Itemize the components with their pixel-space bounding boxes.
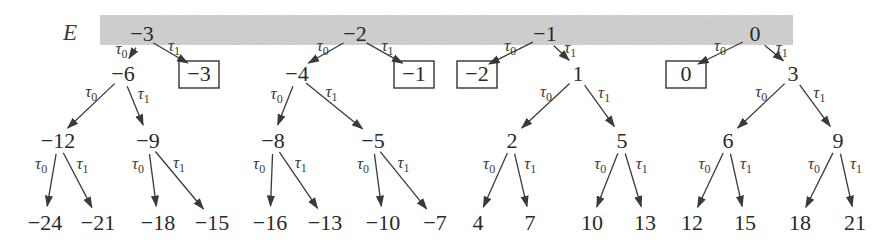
tau0-label: τ0 [808, 154, 820, 176]
boxed-node: 0 [666, 61, 706, 88]
nodes: −3−2−10−6−3−4−1−2103−12−9−8−52569−24−21−… [28, 21, 866, 235]
leaf-node: 7 [525, 210, 536, 235]
tau1-label: τ1 [77, 154, 89, 176]
root-node: −1 [533, 21, 556, 46]
node-value: 15 [734, 210, 756, 235]
tau1-label: τ1 [813, 83, 825, 105]
node-value: −1 [533, 21, 556, 46]
tree-node: −4 [285, 61, 308, 86]
tau1-label: τ1 [295, 153, 307, 175]
leaf-node: 4 [473, 210, 484, 235]
tree-node: −9 [136, 128, 159, 153]
root-node: 0 [750, 21, 761, 46]
node-value: 12 [681, 210, 703, 235]
node-value: 1 [573, 61, 584, 86]
tau0-label: τ0 [357, 154, 369, 176]
boxed-node: −2 [457, 61, 497, 88]
tau0-label: τ0 [755, 82, 767, 104]
boxed-node: −3 [179, 61, 219, 88]
node-value: −16 [253, 210, 287, 235]
tau1-label: τ1 [397, 153, 409, 175]
node-value: 2 [507, 128, 518, 153]
node-value: 9 [833, 128, 844, 153]
tree-node: −12 [41, 128, 75, 153]
tree-node: 5 [617, 128, 628, 153]
root-node: −2 [343, 21, 366, 46]
leaf-node: −10 [366, 210, 400, 235]
tau0-label: τ0 [699, 154, 711, 176]
tree-node: −8 [261, 128, 284, 153]
node-value: 5 [617, 128, 628, 153]
edge-arrow-tau0 [271, 154, 273, 206]
tau0-label: τ0 [594, 154, 606, 176]
tau0-label: τ0 [35, 154, 47, 176]
tree-node: 9 [833, 128, 844, 153]
tau1-label: τ1 [740, 154, 752, 176]
leaf-node: −18 [141, 210, 175, 235]
tau1-label: τ1 [524, 154, 536, 176]
node-value: 10 [581, 210, 603, 235]
tree-node: 2 [507, 128, 518, 153]
boxed-node: −1 [394, 61, 434, 88]
node-value: −7 [423, 210, 446, 235]
leaf-node: 18 [789, 210, 811, 235]
node-value: 0 [681, 61, 692, 86]
node-value: −1 [402, 61, 425, 86]
tau1-label: τ1 [598, 83, 610, 105]
leaf-node: 10 [581, 210, 603, 235]
node-value: −21 [81, 210, 115, 235]
leaf-node: 12 [681, 210, 703, 235]
node-value: −24 [28, 210, 62, 235]
tree-node: −6 [111, 61, 134, 86]
node-value: −6 [111, 61, 134, 86]
node-value: −3 [130, 21, 153, 46]
leaf-node: −21 [81, 210, 115, 235]
leaf-node: −16 [253, 210, 287, 235]
tree-node: 3 [788, 61, 799, 86]
node-value: −4 [285, 61, 308, 86]
edge-arrow-tau0 [129, 48, 136, 59]
e-band-texture [100, 15, 793, 45]
node-value: 13 [634, 210, 656, 235]
root-node: −3 [130, 21, 153, 46]
tree-node: 6 [723, 128, 734, 153]
tau0-label: τ0 [132, 154, 144, 176]
edge-arrow-tau0 [374, 154, 381, 206]
node-value: 7 [525, 210, 536, 235]
tau1-label: τ1 [138, 84, 150, 106]
node-value: 6 [723, 128, 734, 153]
node-value: −5 [361, 128, 384, 153]
node-value: −2 [465, 61, 488, 86]
tree-diagram: E τ0τ1τ0τ1τ0τ1τ0τ1τ0τ1τ0τ1τ0τ1τ0τ1τ0τ1τ0… [0, 0, 890, 245]
set-label-e: E [62, 20, 77, 45]
tau1-label: τ1 [636, 154, 648, 176]
node-value: −9 [136, 128, 159, 153]
edge-arrow-tau1 [155, 151, 203, 209]
edges: τ0τ1τ0τ1τ0τ1τ0τ1τ0τ1τ0τ1τ0τ1τ0τ1τ0τ1τ0τ1… [35, 36, 862, 209]
node-value: 18 [789, 210, 811, 235]
leaf-node: −15 [195, 210, 229, 235]
leaf-node: −13 [308, 210, 342, 235]
leaf-node: −24 [28, 210, 62, 235]
tau0-label: τ0 [540, 82, 552, 104]
tau1-label: τ1 [173, 153, 185, 175]
tau0-label: τ0 [85, 82, 97, 104]
node-value: −2 [343, 21, 366, 46]
tree-node: 1 [573, 61, 584, 86]
tau0-label: τ0 [483, 154, 495, 176]
node-value: 0 [750, 21, 761, 46]
node-value: 4 [473, 210, 484, 235]
edge-arrow-tau0 [149, 154, 156, 206]
node-value: −18 [141, 210, 175, 235]
leaf-node: 13 [634, 210, 656, 235]
tau1-label: τ1 [325, 82, 337, 104]
node-value: −10 [366, 210, 400, 235]
node-value: −8 [261, 128, 284, 153]
leaf-node: 21 [844, 210, 866, 235]
leaf-node: 15 [734, 210, 756, 235]
edge-arrow-tau0 [47, 154, 56, 206]
tau0-label: τ0 [271, 84, 283, 106]
node-value: −3 [187, 61, 210, 86]
node-value: −13 [308, 210, 342, 235]
tau0-label: τ0 [253, 154, 265, 176]
